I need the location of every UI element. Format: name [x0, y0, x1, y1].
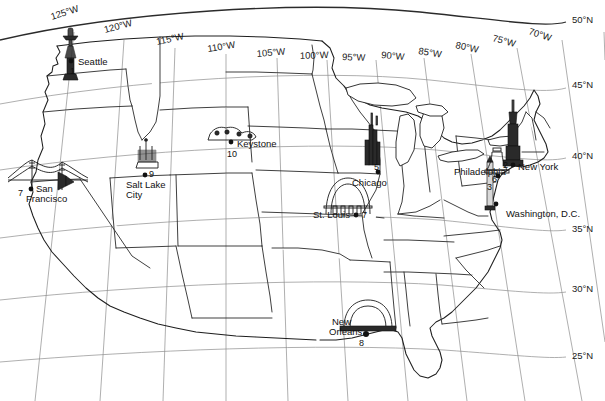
state-border-nh-me — [536, 112, 550, 128]
state-border-tn-ms-al — [384, 272, 472, 275]
state-border-in-ky — [398, 200, 440, 214]
state-border-nc-sc — [456, 246, 500, 258]
city-label-keystone: Keystone — [237, 138, 277, 149]
longitude-labels: 125°W 120°W 115°W 110°W 105°W 100°W 95°W… — [49, 3, 553, 63]
state-border-wy-co — [170, 173, 252, 175]
longitude-label-70w: 70°W — [527, 25, 553, 43]
state-border-al-ga — [436, 274, 442, 324]
city-label-st-louis: St. Louis — [313, 209, 350, 220]
meridian-85w — [471, 54, 525, 401]
state-border-az-nm — [176, 246, 192, 318]
meridian-125w — [35, 32, 74, 401]
latitude-label-50n: 50°N — [572, 14, 593, 25]
city-label-new-orleans-line2: Orleans — [329, 326, 363, 337]
city-labels: Seattle New York Washington, D.C. San Fr… — [26, 56, 580, 337]
city-dot-seattle[interactable] — [69, 59, 74, 64]
landmark-number-new-york: 2 — [503, 160, 508, 170]
parallel-25n — [0, 347, 566, 362]
longitude-label-80w: 80°W — [455, 39, 480, 55]
state-border-nd-sd — [226, 72, 312, 74]
landmark-number-philadelphia: 6 — [492, 174, 497, 184]
state-border-sd-ne — [248, 126, 326, 129]
meridian-105w — [277, 58, 288, 401]
longitude-label-100w: 100°W — [300, 49, 329, 61]
city-dots — [29, 59, 516, 337]
lake-superior — [346, 83, 416, 106]
city-dot-salt-lake-city[interactable] — [143, 173, 148, 178]
lake-erie — [438, 150, 484, 162]
state-border-il-ky — [398, 214, 444, 218]
parallel-45n — [0, 75, 566, 104]
longitude-label-120w: 120°W — [103, 17, 134, 35]
state-border-in-oh — [424, 140, 430, 192]
longitude-label-90w: 90°W — [381, 49, 405, 62]
state-border-wa-id — [126, 69, 132, 106]
latitude-label-30n: 30°N — [572, 283, 593, 294]
latitude-label-35n: 35°N — [572, 223, 593, 234]
city-dot-new-orleans[interactable] — [363, 331, 369, 337]
map-canvas: 125°W 120°W 115°W 110°W 105°W 100°W 95°W… — [0, 0, 605, 401]
michigan-peninsula — [416, 104, 448, 116]
landmark-number-chicago: 5 — [374, 162, 379, 172]
state-border-wv-va — [444, 200, 488, 216]
state-border-va-nc — [444, 230, 500, 236]
latitude-label-45n: 45°N — [572, 79, 593, 90]
state-border-co-ks — [252, 173, 262, 246]
city-dot-washington[interactable] — [494, 202, 499, 207]
city-label-seattle: Seattle — [78, 56, 108, 67]
state-border-mn-ia — [326, 129, 374, 130]
city-label-chicago: Chicago — [352, 177, 387, 188]
landmark-number-san-francisco: 7 — [18, 188, 23, 198]
city-dot-new-york[interactable] — [511, 163, 516, 168]
state-border-sd-mn — [312, 74, 326, 129]
us-coastline — [29, 46, 316, 340]
state-border-wa-or — [47, 69, 126, 76]
longitude-label-75w: 75°W — [491, 32, 516, 49]
city-dot-st-louis[interactable] — [354, 213, 359, 218]
state-border-ut-co — [176, 175, 178, 246]
state-border-ne-ks — [256, 170, 338, 173]
longitude-label-125w: 125°W — [49, 3, 80, 22]
state-border-ga-fl — [442, 318, 488, 324]
landmark-number-salt-lake-city: 9 — [149, 169, 154, 179]
state-border-id-nv-ut — [110, 175, 170, 178]
city-label-san-francisco-line2: Francisco — [26, 193, 67, 204]
city-dot-keystone[interactable] — [229, 140, 234, 145]
meridian-115w — [163, 48, 175, 401]
state-border-id-mt — [142, 37, 160, 140]
state-boundaries — [31, 37, 550, 328]
parallel-50n — [0, 7, 566, 40]
latitude-label-40n: 40°N — [572, 150, 593, 161]
landmark-number-new-orleans: 8 — [359, 338, 364, 348]
state-border-ky-tn — [384, 240, 454, 242]
us-landmarks-map: 125°W 120°W 115°W 110°W 105°W 100°W 95°W… — [0, 0, 605, 401]
city-label-salt-lake-city-line2: City — [126, 189, 143, 200]
city-label-philadelphia: Philadelphia — [454, 166, 506, 177]
city-dot-san-francisco[interactable] — [29, 187, 34, 192]
longitude-label-105w: 105°W — [256, 46, 285, 59]
us-national-outline — [29, 36, 548, 378]
state-border-sc-ga — [456, 258, 484, 288]
lake-michigan — [396, 114, 416, 166]
longitude-label-115w: 115°W — [155, 30, 185, 47]
meridian-100w — [327, 60, 348, 401]
state-border-or-id — [132, 106, 142, 140]
city-label-washington: Washington, D.C. — [506, 208, 580, 219]
longitude-label-85w: 85°W — [418, 45, 443, 60]
state-border-nm-tx — [262, 246, 272, 312]
landmark-number-st-louis: 7 — [362, 210, 367, 220]
landmark-number-seattle: 1 — [70, 66, 75, 76]
longitude-label-95w: 95°W — [342, 51, 366, 63]
landmark-number-keystone: 10 — [227, 149, 237, 159]
city-label-new-york: New York — [518, 161, 558, 172]
state-border-or-ca — [43, 106, 132, 112]
temple-icon — [136, 139, 158, 169]
canada-border-west — [57, 36, 322, 46]
state-border-ar-la — [350, 260, 390, 262]
longitude-label-110w: 110°W — [207, 39, 236, 54]
latitude-label-25n: 25°N — [572, 350, 593, 361]
state-border-ms-al — [404, 272, 410, 326]
state-border-ia-mo — [338, 173, 380, 174]
